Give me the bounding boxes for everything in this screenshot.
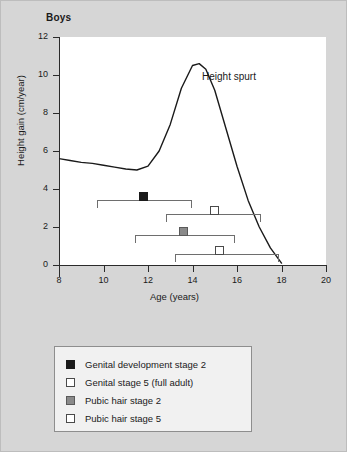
- open-square-icon: [66, 414, 75, 423]
- stage-range-bar: [175, 254, 280, 263]
- x-tick: [326, 266, 327, 272]
- legend-item-label: Pubic hair stage 5: [85, 413, 161, 424]
- legend-item: Pubic hair stage 5: [66, 411, 161, 425]
- stage-range-bar: [97, 200, 193, 209]
- range-cap-left: [175, 254, 176, 262]
- range-cap-left: [135, 235, 136, 243]
- x-tick: [193, 266, 194, 272]
- height-velocity-curve: [59, 37, 326, 265]
- x-tick: [237, 266, 238, 272]
- range-cap-left: [166, 214, 167, 222]
- x-tick-label: 18: [271, 275, 293, 285]
- stage-range-bar: [135, 235, 235, 244]
- legend: Genital development stage 2Genital stage…: [54, 346, 252, 432]
- legend-item-label: Genital development stage 2: [85, 359, 206, 370]
- range-cap-left: [97, 200, 98, 208]
- chart-panel: Boys 121086420 8101214161820 Height spur…: [6, 5, 343, 335]
- x-axis-label: Age (years): [6, 291, 343, 302]
- figure-container: Boys 121086420 8101214161820 Height spur…: [0, 0, 347, 452]
- x-tick: [148, 266, 149, 272]
- open-square-icon: [66, 378, 75, 387]
- x-tick: [282, 266, 283, 272]
- range-cap-right: [191, 200, 192, 208]
- stage-range-bar: [166, 214, 262, 223]
- x-tick-label: 8: [48, 275, 70, 285]
- y-axis-label: Height gain (cm/year): [15, 41, 26, 201]
- y-tick-label: 4: [32, 183, 48, 193]
- height-spurt-annotation: Height spurt: [202, 71, 256, 82]
- filled-gray-square-icon: [66, 396, 75, 405]
- y-tick-label: 0: [32, 259, 48, 269]
- stage-mean-marker: [215, 246, 224, 255]
- x-tick: [104, 266, 105, 272]
- x-tick-label: 10: [93, 275, 115, 285]
- x-tick-label: 12: [137, 275, 159, 285]
- legend-item: Genital stage 5 (full adult): [66, 375, 193, 389]
- legend-item-label: Genital stage 5 (full adult): [85, 377, 193, 388]
- range-cap-right: [260, 214, 261, 222]
- range-cap-right: [234, 235, 235, 243]
- x-tick: [59, 266, 60, 272]
- y-tick-label: 10: [32, 69, 48, 79]
- chart-title: Boys: [46, 12, 71, 23]
- x-tick-label: 16: [226, 275, 248, 285]
- range-line: [175, 254, 280, 255]
- stage-mean-marker: [210, 206, 219, 215]
- range-cap-right: [278, 254, 279, 262]
- y-tick-label: 8: [32, 107, 48, 117]
- x-tick-label: 14: [182, 275, 204, 285]
- y-tick-label: 6: [32, 145, 48, 155]
- legend-item: Pubic hair stage 2: [66, 393, 161, 407]
- stage-mean-marker: [179, 227, 188, 236]
- legend-item: Genital development stage 2: [66, 357, 206, 371]
- stage-mean-marker: [139, 192, 148, 201]
- y-tick-label: 2: [32, 221, 48, 231]
- x-tick-label: 20: [315, 275, 337, 285]
- y-tick-label: 12: [32, 31, 48, 41]
- legend-item-label: Pubic hair stage 2: [85, 395, 161, 406]
- filled-black-square-icon: [66, 360, 75, 369]
